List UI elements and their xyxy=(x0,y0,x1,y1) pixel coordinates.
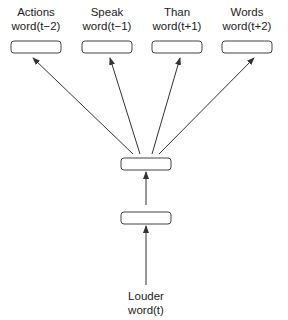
output-box-t+2 xyxy=(222,41,272,53)
arrow-to-t-1 xyxy=(110,58,140,154)
input-word: Louder xyxy=(111,289,181,303)
projection-box xyxy=(121,158,171,170)
output-position: word(t+2) xyxy=(212,19,282,33)
output-label-t-1: Speak word(t−1) xyxy=(72,5,142,33)
output-label-t+1: Than word(t+1) xyxy=(142,5,212,33)
output-position: word(t+1) xyxy=(142,19,212,33)
output-word: Speak xyxy=(72,5,142,19)
output-label-t+2: Words word(t+2) xyxy=(212,5,282,33)
arrow-to-t+2 xyxy=(159,58,254,154)
output-label-t-2: Actions word(t−2) xyxy=(1,5,71,33)
input-box xyxy=(121,212,171,224)
input-label: Louder word(t) xyxy=(111,289,181,317)
output-word: Actions xyxy=(1,5,71,19)
output-box-t-2 xyxy=(11,41,61,53)
input-position: word(t) xyxy=(111,303,181,317)
arrow-to-t-2 xyxy=(33,58,133,154)
output-word: Than xyxy=(142,5,212,19)
output-position: word(t−1) xyxy=(72,19,142,33)
output-box-t-1 xyxy=(82,41,132,53)
arrow-to-t+1 xyxy=(152,58,180,154)
diagram-canvas xyxy=(0,0,288,320)
output-word: Words xyxy=(212,5,282,19)
output-box-t+1 xyxy=(152,41,202,53)
output-position: word(t−2) xyxy=(1,19,71,33)
